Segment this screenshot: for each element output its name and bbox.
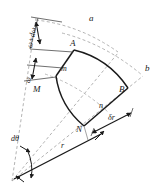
label-vertex-B: B <box>119 85 125 94</box>
radius-arrow-head <box>95 131 104 140</box>
label-arc-b: b <box>145 64 150 73</box>
element-inner-arc-NM <box>56 76 84 126</box>
delta-r-tick-right <box>130 108 133 117</box>
label-d-theta: dθ <box>11 135 19 143</box>
label-vertex-N: N <box>76 125 82 134</box>
radius-arrow-tail <box>16 176 24 182</box>
radius-line <box>14 133 103 179</box>
label-point-m: m <box>61 65 67 73</box>
omega-arrow <box>32 58 36 79</box>
label-arc-a: a <box>89 14 94 23</box>
label-vertex-A: A <box>70 39 76 48</box>
d-theta-leader <box>20 146 30 152</box>
diagram-canvas <box>0 0 163 193</box>
label-radius-r: r <box>61 142 64 150</box>
outer-arc-a <box>36 20 118 52</box>
label-vertex-M: M <box>33 85 41 94</box>
sector-element-diagram: ω+dω ω a b A B M N m n δr dθ r <box>0 0 163 193</box>
rung-middle <box>27 65 63 68</box>
rung-upper <box>30 49 73 52</box>
element-outer-arc-AB <box>74 50 128 88</box>
label-delta-r: δr <box>108 114 115 122</box>
label-point-n: n <box>99 102 103 110</box>
tick-at-N <box>84 126 88 140</box>
d-theta-arc <box>27 149 32 178</box>
